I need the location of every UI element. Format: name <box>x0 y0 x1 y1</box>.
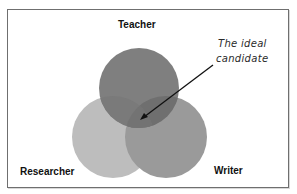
annotation-line-1: The ideal <box>218 36 268 51</box>
ideal-candidate-annotation: The ideal candidate <box>218 36 268 66</box>
label-teacher: Teacher <box>118 19 156 30</box>
label-writer: Writer <box>214 165 243 176</box>
annotation-line-2: candidate <box>216 51 268 66</box>
label-researcher: Researcher <box>20 166 74 177</box>
diagram-canvas: Teacher Researcher Writer The ideal cand… <box>0 0 297 194</box>
